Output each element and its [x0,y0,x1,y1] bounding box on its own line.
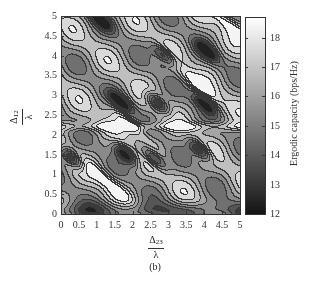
x-tick-mark [61,211,62,214]
x-tick-mark [97,211,98,214]
x-label-lambda: λ [148,249,163,260]
y-tick-mark [61,194,64,195]
y-tick-label: 0.5 [35,189,57,199]
contour-plot-area [61,16,240,214]
y-tick-label: 1 [35,169,57,179]
contour-figure: 00.511.522.533.544.55 00.511.522.533.544… [0,0,309,282]
y-tick-label: 4.5 [35,31,57,41]
y-label-delta: Δ [8,117,19,123]
y-tick-label: 5 [35,11,57,21]
y-tick-label: 1.5 [35,150,57,160]
y-tick-mark [61,214,64,215]
colorbar-tick-mark [262,38,265,39]
colorbar-tick-mark [262,214,265,215]
y-label-lambda: λ [23,109,34,124]
y-tick-label: 2 [35,130,57,140]
colorbar-tick-mark [262,67,265,68]
y-axis-label: Δ12 λ [8,102,38,132]
panel-label: (b) [135,261,175,272]
colorbar-tick-mark [245,155,248,156]
colorbar-tick-label: 16 [270,91,280,101]
y-tick-label: 2.5 [35,110,57,120]
x-tick-mark [151,211,152,214]
colorbar-tick-label: 12 [270,209,280,219]
x-axis-label: Δ23 λ [136,234,176,260]
y-tick-mark [61,16,64,17]
colorbar-label: Ergodic capacity (bps/Hz) [288,44,299,184]
colorbar-tick-mark [262,185,265,186]
x-tick-mark [240,211,241,214]
y-tick-label: 4 [35,51,57,61]
y-tick-mark [61,36,64,37]
x-tick-mark [133,211,134,214]
x-tick-mark [204,211,205,214]
colorbar-tick-mark [245,126,248,127]
colorbar-tick-label: 13 [270,180,280,190]
colorbar-tick-mark [245,38,248,39]
colorbar-tick-label: 15 [270,121,280,131]
y-tick-label: 3.5 [35,70,57,80]
y-tick-mark [61,75,64,76]
y-tick-mark [61,155,64,156]
colorbar-tick-label: 14 [270,150,280,160]
colorbar-tick-mark [245,96,248,97]
y-tick-mark [61,56,64,57]
colorbar-tick-mark [262,126,265,127]
x-tick-mark [115,211,116,214]
y-label-subscript: 12 [12,110,20,117]
x-tick-mark [222,211,223,214]
y-tick-mark [61,174,64,175]
y-tick-mark [61,95,64,96]
x-tick-mark [168,211,169,214]
colorbar-tick-mark [262,155,265,156]
colorbar-tick-mark [245,185,248,186]
colorbar-tick-mark [245,214,248,215]
x-tick-mark [186,211,187,214]
colorbar-tick-mark [262,96,265,97]
y-tick-mark [61,115,64,116]
colorbar-tick-label: 17 [270,62,280,72]
y-tick-mark [61,135,64,136]
x-tick-mark [79,211,80,214]
x-tick-label: 5 [229,220,251,230]
colorbar-tick-mark [245,67,248,68]
y-tick-label: 0 [35,209,57,219]
colorbar-tick-label: 18 [270,33,280,43]
y-tick-label: 3 [35,90,57,100]
x-label-subscript: 23 [156,238,163,246]
